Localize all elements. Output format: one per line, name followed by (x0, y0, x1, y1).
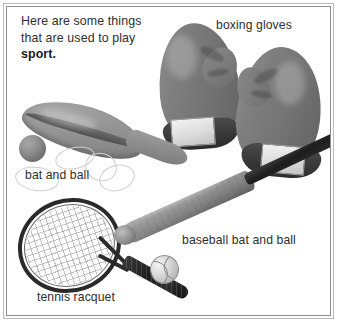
small-ball (19, 135, 46, 162)
label-baseball-bat-and-ball: baseball bat and ball (182, 233, 296, 247)
label-tennis-racquet: tennis racquet (37, 290, 115, 304)
picture-page: Here are some things that are used to pl… (0, 0, 338, 323)
bat-handle (243, 132, 330, 185)
glove-highlight (275, 61, 305, 105)
intro-line-2: that are used to play (21, 31, 135, 45)
label-bat-and-ball: bat and ball (25, 168, 89, 182)
intro-text: Here are some things that are used to pl… (21, 13, 191, 63)
intro-emphasis: sport. (21, 47, 56, 61)
illustration-canvas: Here are some things that are used to pl… (7, 7, 330, 315)
label-boxing-gloves: boxing gloves (216, 18, 292, 32)
intro-line-1: Here are some things (21, 14, 141, 28)
bat-barrel-end (114, 225, 136, 245)
